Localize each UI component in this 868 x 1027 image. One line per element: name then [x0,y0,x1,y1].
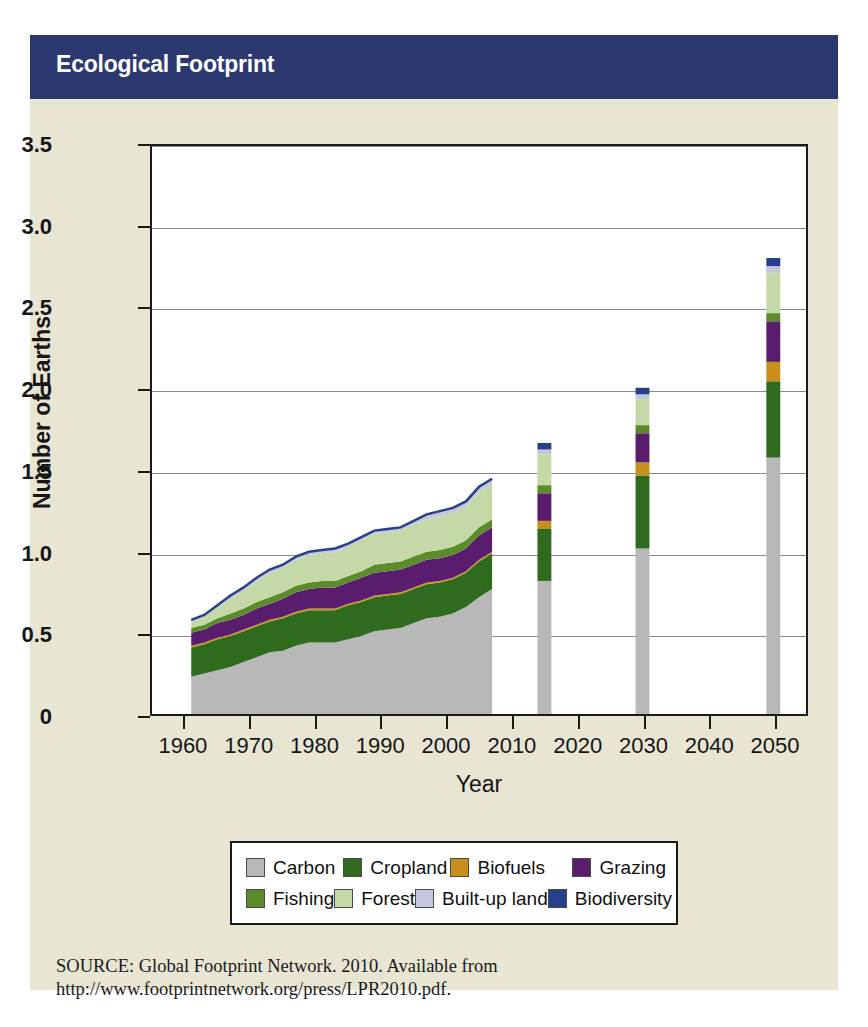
y-tick-label: 2.0 [0,377,52,403]
x-tick-mark [775,716,777,729]
legend-label-forest: Forest [361,888,415,910]
bar-segment-2030-biofuels [636,462,650,475]
legend-swatch-cropland [343,858,362,877]
legend-item-grazing[interactable]: Grazing [572,857,666,879]
bar-segment-2015-carbon [537,581,551,714]
bar-segment-2015-forest [537,454,551,485]
x-tick-mark [315,716,317,729]
legend-item-biofuels[interactable]: Biofuels [450,857,572,879]
x-axis-label: Year [150,771,808,798]
bar-segment-2015-biofuels [537,521,551,529]
legend-swatch-builtup [415,889,434,908]
legend-label-carbon: Carbon [273,857,335,879]
y-tick-mark [138,389,150,391]
legend-label-builtup: Built-up land [442,888,548,910]
bar-segment-2050-builtup [766,266,780,272]
legend-row: FishingForestBuilt-up landBiodiversity [246,883,666,914]
legend-row: CarbonCroplandBiofuelsGrazing [246,852,666,883]
x-tick-mark [380,716,382,729]
figure-container: Ecological Footprint Number of Earths 00… [30,35,838,990]
legend-swatch-grazing [572,858,591,877]
x-tick-label: 2050 [730,733,820,759]
legend-label-biofuels: Biofuels [477,857,545,879]
bar-segment-2015-builtup [537,449,551,454]
y-tick-mark [138,226,150,228]
bar-segment-2050-fishing [766,313,780,321]
bar-segment-2050-carbon [766,458,780,714]
source-line-1: SOURCE: Global Footprint Network. 2010. … [56,955,676,978]
legend-swatch-biodiversity [548,889,567,908]
y-tick-label: 2.5 [0,295,52,321]
legend-swatch-fishing [246,889,265,908]
legend-swatch-forest [334,889,353,908]
bar-segment-2030-biodiversity [636,388,650,394]
legend-swatch-carbon [246,858,265,877]
legend-swatch-biofuels [450,858,469,877]
legend-label-biodiversity: Biodiversity [575,888,672,910]
y-tick-mark [138,144,150,146]
x-tick-mark [578,716,580,729]
source-line-2: http://www.footprintnetwork.org/press/LP… [56,978,676,1001]
chart-legend: CarbonCroplandBiofuelsGrazingFishingFore… [230,841,678,925]
bar-segment-2030-fishing [636,425,650,433]
legend-label-cropland: Cropland [370,857,447,879]
bar-segment-2050-biofuels [766,362,780,381]
source-note: SOURCE: Global Footprint Network. 2010. … [56,955,676,1001]
y-tick-mark [138,553,150,555]
bar-segment-2030-builtup [636,394,650,399]
legend-item-fishing[interactable]: Fishing [246,888,334,910]
page-title: Ecological Footprint [56,51,274,78]
legend-item-builtup[interactable]: Built-up land [415,888,548,910]
plot-area [150,144,808,716]
legend-label-fishing: Fishing [273,888,334,910]
chart-data-layer [152,146,806,714]
x-tick-mark [446,716,448,729]
legend-item-forest[interactable]: Forest [334,888,415,910]
bar-segment-2050-cropland [766,381,780,457]
x-tick-mark [644,716,646,729]
y-tick-label: 1.0 [0,541,52,567]
x-tick-mark [183,716,185,729]
bar-segment-2050-grazing [766,321,780,362]
bar-segment-2050-biodiversity [766,258,780,266]
x-tick-mark [249,716,251,729]
y-tick-mark [138,634,150,636]
bar-segment-2030-carbon [636,548,650,714]
bar-segment-2030-grazing [636,433,650,462]
bar-segment-2015-grazing [537,493,551,521]
plot-wrapper: Number of Earths 00.51.01.52.02.53.03.5 … [30,99,838,990]
y-tick-label: 3.0 [0,214,52,240]
x-tick-mark [709,716,711,729]
x-tick-mark [512,716,514,729]
bar-segment-2015-biodiversity [537,443,551,449]
bar-segment-2030-cropland [636,475,650,548]
legend-label-grazing: Grazing [599,857,666,879]
title-banner: Ecological Footprint [30,35,838,99]
legend-item-biodiversity[interactable]: Biodiversity [548,888,672,910]
bar-segment-2015-cropland [537,529,551,581]
legend-item-carbon[interactable]: Carbon [246,857,343,879]
y-tick-mark [138,716,150,718]
y-tick-label: 0.5 [0,622,52,648]
y-tick-mark [138,307,150,309]
y-tick-mark [138,471,150,473]
legend-item-cropland[interactable]: Cropland [343,857,450,879]
y-tick-label: 3.5 [0,132,52,158]
bar-segment-2030-forest [636,399,650,425]
y-tick-label: 1.5 [0,459,52,485]
bar-segment-2015-fishing [537,485,551,493]
y-tick-label: 0 [0,704,52,730]
bar-segment-2050-forest [766,273,780,314]
